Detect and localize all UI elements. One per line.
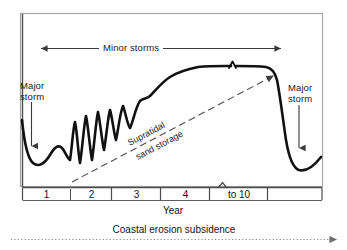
x-axis-title: Year bbox=[133, 205, 213, 216]
x-tick-label-4: 4 bbox=[161, 189, 210, 200]
plot-frame bbox=[21, 14, 323, 187]
curve-break-symbol bbox=[229, 62, 236, 69]
figure-container: Minor storms Major storm Major storm Sup… bbox=[0, 0, 347, 250]
x-tick-label-2: 2 bbox=[71, 189, 112, 200]
major-storm-right-label: Major storm bbox=[288, 82, 312, 104]
x-tick-label-3: 3 bbox=[112, 189, 161, 200]
x-tick-label-to10: to 10 bbox=[210, 189, 268, 200]
major-storm-left-label: Major storm bbox=[20, 80, 44, 102]
minor-storms-label: Minor storms bbox=[99, 42, 163, 53]
caption-coastal-erosion: Coastal erosion subsidence bbox=[74, 224, 274, 235]
supratidal-trend-arrow bbox=[72, 76, 273, 182]
x-tick-label-1: 1 bbox=[22, 189, 71, 200]
sand-volume-curve bbox=[22, 66, 321, 170]
